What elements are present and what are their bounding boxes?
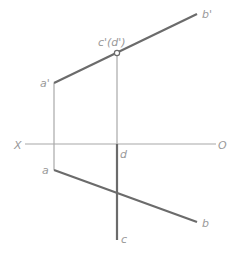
axis-label-x: X [13, 139, 22, 152]
projection-diagram: X O a' b' c'(d') a b c d [0, 0, 236, 258]
label-d: d [120, 148, 128, 161]
line-ab-horizontal [54, 170, 197, 222]
label-b-prime: b' [202, 8, 212, 21]
label-c-prime-d-prime: c'(d') [98, 36, 126, 49]
label-b: b [202, 217, 209, 230]
label-c: c [121, 233, 127, 246]
point-c-prime-marker [114, 50, 119, 55]
label-a: a [42, 164, 49, 177]
axis-label-o: O [218, 139, 227, 152]
label-a-prime: a' [40, 77, 50, 90]
